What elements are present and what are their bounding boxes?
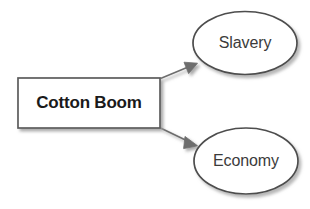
node-cotton-boom [18, 78, 160, 128]
node-slavery [193, 12, 297, 75]
diagram-graphics [0, 0, 310, 209]
node-economy [194, 128, 298, 194]
arrow-cotton-boom-to-economy [161, 128, 198, 149]
diagram-canvas: Cotton Boom Slavery Economy [0, 0, 310, 209]
arrow-cotton-boom-to-slavery [161, 62, 198, 78]
